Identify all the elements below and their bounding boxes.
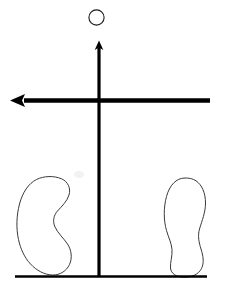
- force-diagram-canvas: [0, 0, 228, 292]
- canvas-background: [0, 0, 228, 292]
- diagram-svg: [0, 0, 228, 292]
